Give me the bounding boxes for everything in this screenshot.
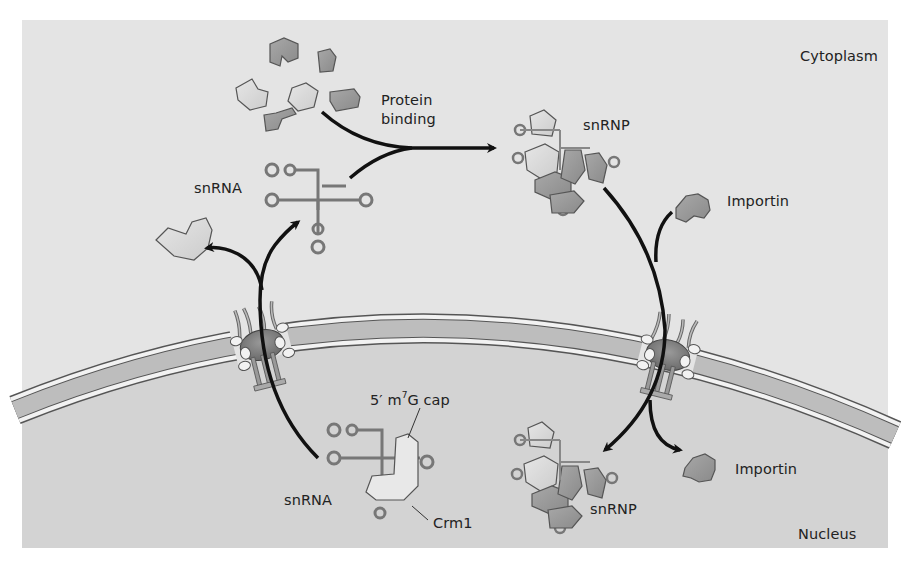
cap-superscript: 7: [402, 390, 408, 400]
label-snrna-nucleus: snRNA: [284, 493, 332, 508]
label-snrnp-nucleus: snRNP: [590, 502, 637, 517]
label-protein-binding-line1: Protein: [381, 93, 433, 108]
region-label-nucleus: Nucleus: [798, 527, 856, 542]
cap-suffix: G cap: [407, 392, 449, 408]
label-crm1: Crm1: [433, 516, 473, 531]
label-importin-cytoplasm: Importin: [727, 194, 789, 209]
snrnp-transport-diagram: Cytoplasm Nucleus Protein binding snRNA …: [0, 0, 904, 567]
diagram-canvas: [0, 0, 904, 567]
region-label-cytoplasm: Cytoplasm: [800, 49, 878, 64]
label-snrna-cytoplasm: snRNA: [194, 181, 242, 196]
cap-prefix: 5′ m: [370, 392, 402, 408]
label-cap: 5′ m7G cap: [370, 392, 450, 407]
label-importin-nucleus: Importin: [735, 462, 797, 477]
label-protein-binding-line2: binding: [381, 112, 436, 127]
label-snrnp-cytoplasm: snRNP: [583, 118, 630, 133]
